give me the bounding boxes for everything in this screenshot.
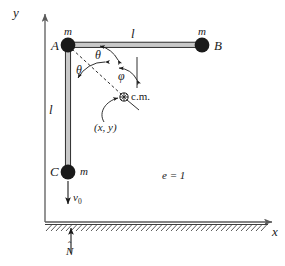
normal-hat-accent: ˆ (68, 242, 71, 251)
cm-label: c.m. (131, 91, 150, 102)
rod-AB-length-label: l (131, 27, 135, 40)
normal-force-label: ˆN (66, 246, 73, 257)
mass-A-label: m (64, 26, 72, 37)
theta-lower-label: θ (76, 64, 82, 76)
restitution-label: e = 1 (162, 170, 185, 181)
vertex-B-label: B (214, 39, 222, 52)
angle-markers (78, 46, 137, 80)
x-axis-label: x (272, 225, 278, 238)
mass-B (195, 38, 210, 53)
velocity-v0-label: v0 (73, 192, 82, 206)
ground-hatching (45, 225, 268, 232)
mass-B-label: m (198, 26, 206, 37)
vertex-C-label: C (50, 165, 59, 178)
mass-C (61, 165, 76, 180)
rod-AC (65, 45, 70, 172)
mass-A (61, 38, 76, 53)
rod-AB (68, 42, 202, 47)
y-axis-label: y (13, 6, 19, 19)
xy-pointer-arrow (102, 98, 118, 122)
vertex-A-label: A (51, 39, 59, 52)
velocity-subscript: 0 (78, 197, 82, 206)
rod-AC-length-label: l (49, 103, 53, 116)
mass-C-label: m (80, 166, 88, 177)
theta-upper-label: θ (95, 49, 101, 61)
physics-diagram-canvas (0, 0, 285, 266)
phi-label: φ (118, 70, 125, 82)
theta-upper-arc (100, 46, 118, 60)
cm-coordinate-label: (x, y) (94, 122, 117, 133)
masses-group (61, 38, 210, 180)
